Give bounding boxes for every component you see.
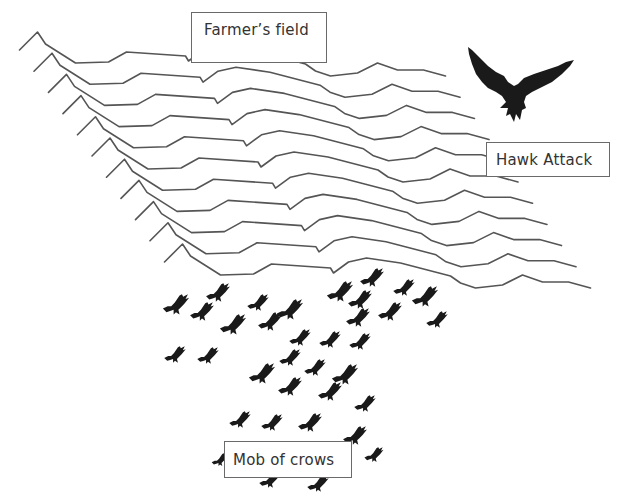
crow-icon [279, 349, 300, 366]
crow-icon [364, 447, 383, 462]
field-line [136, 202, 562, 246]
crow-icon [378, 302, 402, 320]
crow-icon [247, 294, 268, 311]
crow-icon [164, 346, 185, 363]
crow-icon [346, 308, 370, 326]
crow-icon [261, 414, 282, 431]
crow-icon [163, 294, 189, 314]
field-line [49, 74, 475, 118]
crow-icon [249, 363, 275, 383]
hawk-attack-label-text: Hawk Attack [496, 151, 592, 169]
crow-icon [229, 411, 250, 428]
field-line [121, 180, 547, 224]
crow-icon [197, 347, 218, 364]
crow-icon [426, 311, 447, 328]
crow-icon [289, 329, 310, 346]
mob-of-crows-label-text: Mob of crows [233, 451, 334, 469]
crow-icon [360, 268, 384, 286]
crow-icon [258, 312, 282, 330]
crow-icon [393, 279, 414, 296]
field-line [92, 138, 518, 182]
crow-icon [349, 333, 370, 350]
crow-icon [298, 413, 322, 431]
field-line [107, 159, 533, 203]
field-line [78, 117, 504, 161]
crow-icon [332, 364, 358, 384]
crow-icon [327, 281, 353, 301]
crow-icon [220, 314, 246, 334]
crow-icon [412, 286, 438, 306]
crow-icon [354, 395, 375, 412]
hawk-attack-label: Hawk Attack [486, 142, 610, 177]
crow-icon [348, 290, 372, 308]
crow-icon [318, 382, 342, 400]
hawk-icon [468, 47, 574, 122]
crow-icon [206, 283, 230, 301]
crow-icon [278, 377, 302, 395]
crow-icon [190, 302, 214, 320]
diagram-canvas [0, 0, 626, 503]
crow-icon [304, 359, 325, 376]
farmers-field-label-text: Farmer’s field [204, 21, 309, 39]
field-line [63, 96, 489, 140]
mob-of-crows-label: Mob of crows [224, 441, 352, 478]
crow-icon [319, 331, 340, 348]
farmers-field-label: Farmer’s field [191, 12, 327, 63]
field-line [150, 223, 576, 267]
field-line [165, 244, 591, 288]
